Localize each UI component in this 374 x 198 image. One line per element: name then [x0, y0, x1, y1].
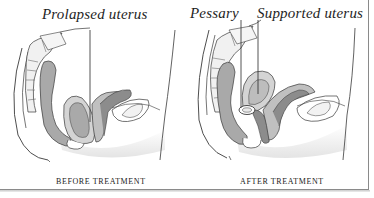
panel-before: Prolapsed uterus BEFORE TREATMENT	[0, 0, 187, 190]
label-supported-uterus: Supported uterus	[257, 5, 363, 22]
pessary-ring-inner	[243, 108, 252, 112]
caption-before-treatment: BEFORE TREATMENT	[56, 177, 146, 186]
caption-after-treatment: AFTER TREATMENT	[240, 177, 324, 186]
front-abdomen	[60, 28, 90, 32]
panel-after: Pessary Supported uterus AFTER TREATMENT	[187, 0, 369, 190]
thigh-line	[229, 156, 231, 160]
perineal-body	[243, 138, 261, 148]
front-contour	[160, 30, 175, 160]
after-illustration	[187, 0, 369, 190]
thigh-line	[48, 160, 50, 162]
label-prolapsed-uterus: Prolapsed uterus	[42, 6, 148, 23]
front-contour	[343, 28, 355, 160]
label-pessary: Pessary	[190, 5, 239, 22]
before-illustration	[0, 0, 187, 190]
